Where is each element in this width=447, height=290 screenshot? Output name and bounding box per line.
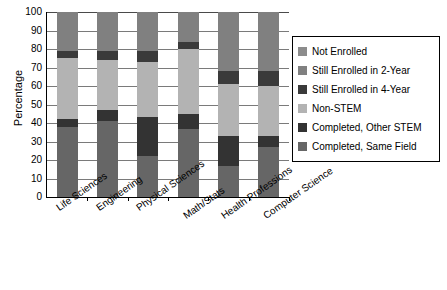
bar-physical-sciences xyxy=(137,12,158,197)
y-axis-tick-label: 40 xyxy=(31,118,42,128)
bar-segment xyxy=(218,12,239,71)
bar-computer-science xyxy=(258,12,279,197)
legend-label: Still Enrolled in 2-Year xyxy=(312,65,410,76)
y-axis-tick-label: 100 xyxy=(25,7,42,17)
y-axis-tick-label: 20 xyxy=(31,155,42,165)
bar-segment xyxy=(258,12,279,71)
bar-segment xyxy=(178,49,199,114)
legend-label: Non-STEM xyxy=(312,103,361,114)
bar-engineering xyxy=(97,12,118,197)
bar-segment xyxy=(97,12,118,51)
x-axis-labels: Life SciencesEngineeringPhysical Science… xyxy=(0,198,300,288)
bar-segment xyxy=(57,12,78,51)
legend-swatch-icon xyxy=(298,142,307,151)
bar-segment xyxy=(97,51,118,60)
bar-segment xyxy=(57,119,78,126)
legend-label: Still Enrolled in 4-Year xyxy=(312,84,410,95)
legend-swatch-icon xyxy=(298,123,307,132)
bar-segment xyxy=(218,136,239,166)
legend-item: Non-STEM xyxy=(298,99,435,118)
bar-segment xyxy=(218,84,239,136)
legend-swatch-icon xyxy=(298,47,307,56)
bar-segment xyxy=(137,12,158,51)
y-axis-tick-label: 60 xyxy=(31,81,42,91)
bar-segment xyxy=(97,121,118,197)
bar-health-professions xyxy=(218,12,239,197)
y-axis-tick-label: 80 xyxy=(31,44,42,54)
bar-segment xyxy=(57,58,78,119)
bar-segment xyxy=(258,136,279,147)
chart-legend: Not EnrolledStill Enrolled in 2-YearStil… xyxy=(292,36,440,162)
bar-segment xyxy=(178,114,199,129)
y-axis-tick-label: 10 xyxy=(31,174,42,184)
legend-item: Still Enrolled in 4-Year xyxy=(298,80,435,99)
bar-segment xyxy=(258,71,279,86)
legend-item: Not Enrolled xyxy=(298,42,435,61)
legend-item: Completed, Same Field xyxy=(298,137,435,156)
y-axis-tick-label: 70 xyxy=(31,63,42,73)
y-axis-tick-labels: 1009080706050403020100 xyxy=(20,12,46,197)
bar-segment xyxy=(137,51,158,62)
bar-segment xyxy=(258,86,279,136)
stacked-bar-chart: Percentage 1009080706050403020100 Life S… xyxy=(0,0,447,290)
plot-area xyxy=(46,12,289,198)
y-axis-tick-label: 30 xyxy=(31,137,42,147)
legend-item: Completed, Other STEM xyxy=(298,118,435,137)
bar-segment xyxy=(178,12,199,42)
legend-swatch-icon xyxy=(298,66,307,75)
bar-segment xyxy=(137,117,158,156)
bar-segment xyxy=(57,51,78,58)
y-axis-tick-label: 90 xyxy=(31,26,42,36)
legend-label: Completed, Other STEM xyxy=(312,122,421,133)
y-axis-tick-label: 50 xyxy=(31,100,42,110)
legend-swatch-icon xyxy=(298,104,307,113)
bar-life-sciences xyxy=(57,12,78,197)
bar-segment xyxy=(178,42,199,49)
legend-item: Still Enrolled in 2-Year xyxy=(298,61,435,80)
legend-label: Not Enrolled xyxy=(312,46,367,57)
bar-segment xyxy=(57,127,78,197)
bar-segment xyxy=(97,60,118,110)
legend-swatch-icon xyxy=(298,85,307,94)
bar-segment xyxy=(97,110,118,121)
bars-layer xyxy=(47,12,289,197)
bar-segment xyxy=(137,62,158,118)
legend-label: Completed, Same Field xyxy=(312,141,417,152)
bar-segment xyxy=(218,71,239,84)
